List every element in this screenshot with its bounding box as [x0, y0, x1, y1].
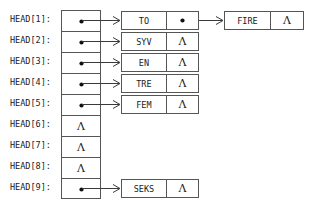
node-data-fire: FIRE [225, 12, 271, 29]
arrow-head9-to-node-seks [82, 185, 120, 193]
node-link-syv: Λ [167, 33, 198, 50]
node-link-to [167, 12, 198, 29]
arrow-head2-to-node-syv [82, 38, 120, 46]
null-symbol: Λ [178, 78, 186, 89]
linked-list-diagram: HEAD[1]: HEAD[2]: HEAD[3]: HEAD[4]: HEAD… [0, 0, 313, 206]
node-data-tre: TRE [122, 75, 167, 92]
null-symbol: Λ [178, 36, 186, 47]
pointer-dot-icon [181, 19, 184, 22]
null-symbol: Λ [178, 57, 186, 68]
list-node-fem: FEM Λ [121, 95, 199, 114]
list-node-fire: FIRE Λ [224, 11, 304, 30]
null-symbol: Λ [178, 99, 186, 110]
list-node-tre: TRE Λ [121, 74, 199, 93]
node-data-to: TO [122, 12, 167, 29]
list-node-syv: SYV Λ [121, 32, 199, 51]
node-link-tre: Λ [167, 75, 198, 92]
arrow-head4-to-node-tre [82, 80, 120, 88]
node-link-fire: Λ [271, 12, 303, 29]
node-link-seks: Λ [167, 180, 198, 197]
node-link-en: Λ [167, 54, 198, 71]
null-symbol: Λ [178, 183, 186, 194]
list-node-to: TO [121, 11, 199, 30]
list-node-en: EN Λ [121, 53, 199, 72]
node-data-syv: SYV [122, 33, 167, 50]
arrow-head3-to-node-en [82, 59, 120, 67]
node-data-fem: FEM [122, 96, 167, 113]
arrow-head5-to-node-fem [82, 101, 120, 109]
node-data-en: EN [122, 54, 167, 71]
list-node-seks: SEKS Λ [121, 179, 199, 198]
arrow-head1-to-node-to [82, 17, 120, 25]
node-link-fem: Λ [167, 96, 198, 113]
null-symbol: Λ [283, 15, 291, 26]
node-data-seks: SEKS [122, 180, 167, 197]
